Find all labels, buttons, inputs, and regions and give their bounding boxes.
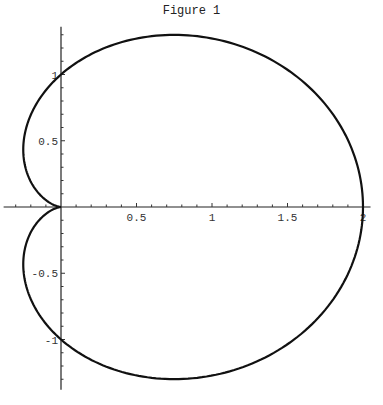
y-tick-label: -0.5 [32, 268, 58, 280]
x-tick-label: 1.5 [278, 212, 298, 224]
plot-area: 0.511.5210.5-0.5-1 [0, 0, 383, 405]
tick-labels: 0.511.5210.5-0.5-1 [32, 70, 367, 347]
x-tick-label: 1 [209, 212, 216, 224]
y-tick-label: 0.5 [38, 136, 58, 148]
x-tick-label: 0.5 [127, 212, 147, 224]
